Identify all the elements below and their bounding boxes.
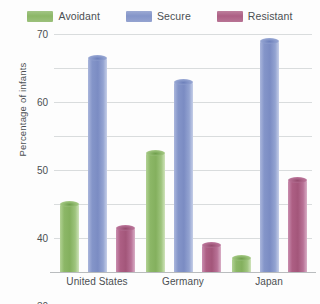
bar-group	[54, 34, 140, 272]
bar-resistant-united-states[interactable]	[116, 228, 135, 272]
y-tick-label: 40	[37, 233, 48, 244]
bar-cap	[116, 225, 135, 231]
bar-group	[226, 34, 312, 272]
x-axis-line	[50, 272, 316, 273]
bar-avoidant-japan[interactable]	[232, 258, 251, 272]
y-axis-title: Percentage of infants	[17, 40, 28, 180]
legend-swatch-secure	[126, 11, 152, 22]
x-axis-label: United States	[54, 276, 140, 287]
y-tick-label: 30	[37, 301, 48, 304]
y-tick-label: 50	[37, 165, 48, 176]
legend-item-secure: Secure	[126, 10, 191, 22]
bar-avoidant-united-states[interactable]	[60, 204, 79, 272]
bar-cap	[260, 38, 279, 44]
bar-chart: Avoidant Secure Resistant Percentage of …	[0, 0, 320, 304]
bar-secure-japan[interactable]	[260, 41, 279, 272]
legend-label-avoidant: Avoidant	[58, 10, 99, 22]
bar-cap	[146, 150, 165, 156]
legend-swatch-avoidant	[27, 11, 53, 22]
legend-item-avoidant: Avoidant	[27, 10, 99, 22]
plot-area: 706050403020100	[54, 34, 312, 272]
bar-secure-united-states[interactable]	[88, 58, 107, 272]
bar-cap	[174, 79, 193, 85]
bar-cap	[232, 255, 251, 261]
bar-resistant-germany[interactable]	[202, 245, 221, 272]
legend-label-secure: Secure	[157, 10, 191, 22]
bar-groups	[54, 34, 312, 272]
x-axis-label: Japan	[226, 276, 312, 287]
bar-cap	[202, 242, 221, 248]
y-tick-label: 70	[37, 29, 48, 40]
bar-cap	[88, 55, 107, 61]
legend-swatch-resistant	[217, 11, 243, 22]
x-axis-label: Germany	[140, 276, 226, 287]
bar-group	[140, 34, 226, 272]
y-tick-label: 60	[37, 97, 48, 108]
bar-cap	[288, 177, 307, 183]
chart-legend: Avoidant Secure Resistant	[0, 6, 320, 26]
x-axis-labels: United StatesGermanyJapan	[54, 276, 312, 287]
bar-secure-germany[interactable]	[174, 82, 193, 272]
bar-resistant-japan[interactable]	[288, 180, 307, 272]
bar-cap	[60, 201, 79, 207]
legend-label-resistant: Resistant	[248, 10, 293, 22]
legend-item-resistant: Resistant	[217, 10, 293, 22]
bar-avoidant-germany[interactable]	[146, 153, 165, 272]
